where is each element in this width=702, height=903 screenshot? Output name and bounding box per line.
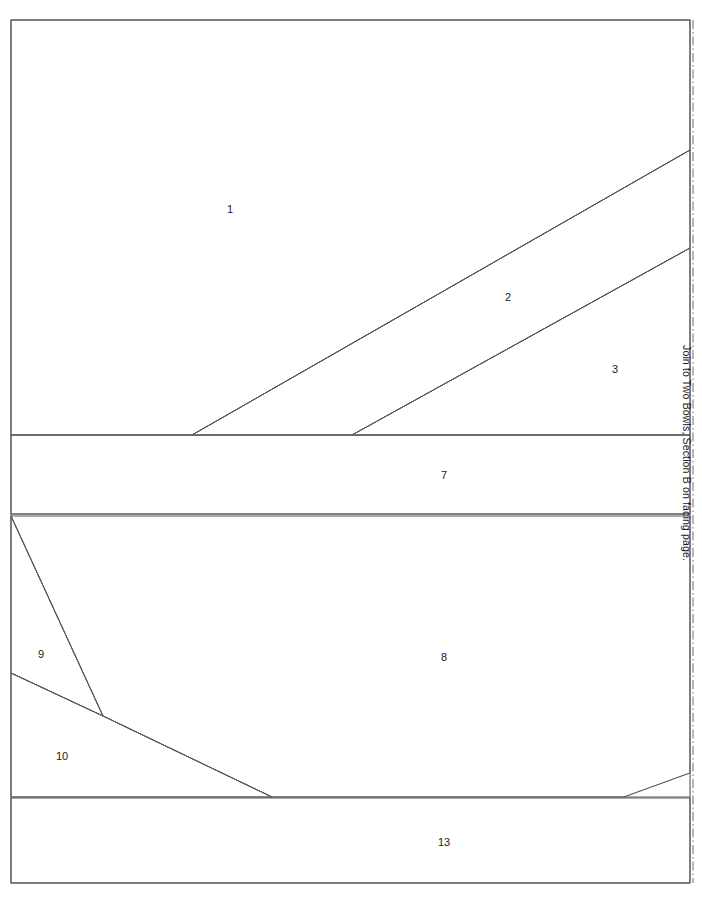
region-label-13: 13 [438,836,450,848]
region-7-shape[interactable] [11,435,690,514]
edge-1-2-line [192,150,690,435]
edge-8-10-line [103,716,272,797]
edge-2-3-line [352,248,690,435]
region-shapes [11,20,690,883]
region-label-8: 8 [441,651,447,663]
page-border [11,20,690,883]
edge-8-9-line [11,516,103,716]
region-label-3: 3 [612,363,618,375]
edge-9-10-line [11,673,103,716]
region-1-shape[interactable] [11,20,690,435]
pattern-page: 1 2 3 7 8 9 10 13 Join to Two Bowls, Sec… [0,0,702,903]
region-13-shape[interactable] [11,798,690,883]
pattern-diagram: 1 2 3 7 8 9 10 13 Join to Two Bowls, Sec… [0,0,702,903]
region-label-2: 2 [505,291,511,303]
region-8-shape[interactable] [11,516,690,797]
region-label-7: 7 [441,469,447,481]
region-label-9: 9 [38,648,44,660]
region-labels: 1 2 3 7 8 9 10 13 [38,203,618,848]
seam-lines [11,150,690,797]
region-label-10: 10 [56,750,68,762]
join-instruction-note: Join to Two Bowls, Section B on facing p… [681,345,693,561]
region-label-1: 1 [227,203,233,215]
